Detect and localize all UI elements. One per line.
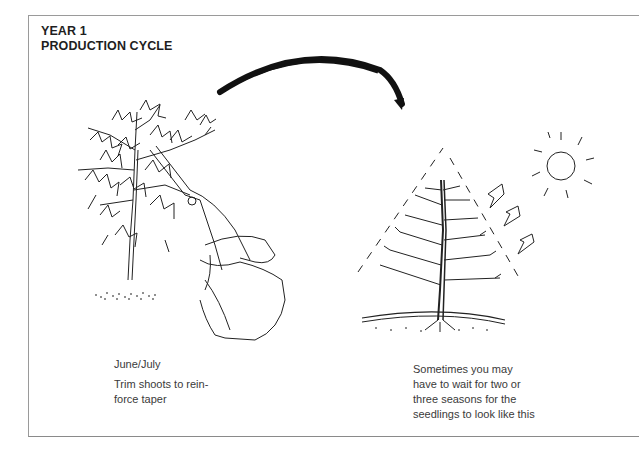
caption-date: June/July xyxy=(114,357,208,372)
caption-text-line: force taper xyxy=(114,392,208,407)
light-arrow-icon xyxy=(488,184,534,254)
caption-text-line: have to wait for two or xyxy=(413,377,535,392)
caption-text-line: Sometimes you may xyxy=(413,362,535,377)
right-caption: Sometimes you may have to wait for two o… xyxy=(413,362,535,422)
caption-text-line: seedlings to look like this xyxy=(413,407,535,422)
caption-text-line: Trim shoots to rein- xyxy=(114,377,208,392)
tapered-tree-illustration xyxy=(358,132,594,332)
left-caption: June/July Trim shoots to rein- force tap… xyxy=(114,357,208,407)
caption-text-line: three seasons for the xyxy=(413,392,535,407)
seedling-pruning-illustration xyxy=(78,100,285,340)
curved-arrow-icon xyxy=(220,59,404,110)
illustrations xyxy=(0,0,639,450)
